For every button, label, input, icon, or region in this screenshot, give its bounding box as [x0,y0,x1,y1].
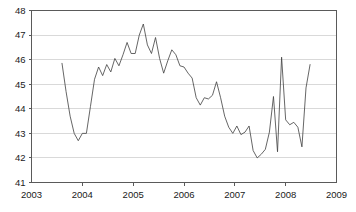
x-tick-label: 2004 [72,189,93,200]
x-tick-label: 2007 [224,189,245,200]
y-tick-label: 47 [15,29,26,40]
y-tick-label: 45 [15,79,26,90]
chart-canvas: 4142434445464748 20032004200520062007200… [0,0,356,212]
x-tick-label: 2003 [21,189,42,200]
y-tick-label: 43 [15,128,26,139]
x-tick-label: 2009 [326,189,347,200]
y-tick-label: 46 [15,54,26,65]
x-tick-label: 2008 [275,189,296,200]
line-chart: 4142434445464748 20032004200520062007200… [0,0,356,212]
x-tick-label: 2006 [173,189,194,200]
y-tick-label: 48 [15,5,26,16]
y-tick-label: 41 [15,177,26,188]
chart-background [0,0,356,212]
x-tick-label: 2005 [123,189,144,200]
y-tick-label: 44 [15,103,26,114]
y-tick-label: 42 [15,152,26,163]
